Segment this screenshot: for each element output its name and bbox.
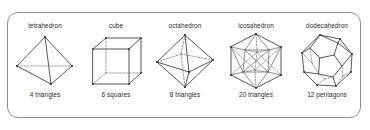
solid-cell-cube: cube 6 squares xyxy=(82,13,150,119)
solid-facecount-cube: 6 squares xyxy=(102,92,131,98)
solid-label-octahedron: octahedron xyxy=(169,23,202,29)
tetrahedron-wireframe-icon xyxy=(14,32,76,90)
solid-label-tetrahedron: tetrahedron xyxy=(28,23,62,29)
octahedron-wireframe-icon xyxy=(155,32,215,90)
solid-cell-dodecahedron: dodecahedron xyxy=(292,13,362,119)
solid-facecount-dodecahedron: 12 pentagons xyxy=(307,92,347,98)
platonic-solids-figure-frame: tetrahedron 4 triangles cube xyxy=(7,12,361,118)
solid-facecount-octahedron: 8 triangles xyxy=(170,92,200,98)
solid-label-icosahedron: icosahedron xyxy=(238,23,274,29)
solid-cell-octahedron: octahedron xyxy=(150,13,220,119)
icosahedron-wireframe-icon xyxy=(226,32,286,90)
dodecahedron-wireframe-icon xyxy=(298,32,356,90)
solid-cell-tetrahedron: tetrahedron 4 triangles xyxy=(8,13,82,119)
solid-facecount-tetrahedron: 4 triangles xyxy=(30,92,60,98)
solid-cell-icosahedron: icosahedron xyxy=(220,13,292,119)
solid-label-dodecahedron: dodecahedron xyxy=(306,23,348,29)
solid-facecount-icosahedron: 20 triangles xyxy=(239,92,273,98)
cube-wireframe-icon xyxy=(88,32,144,90)
solid-label-cube: cube xyxy=(109,23,123,29)
